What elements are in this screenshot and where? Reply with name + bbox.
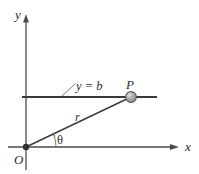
origin-dot — [23, 144, 29, 150]
x-axis-arrowhead — [170, 144, 179, 150]
leader-line — [62, 84, 76, 97]
angle-label: θ — [57, 133, 63, 147]
origin-label: O — [14, 152, 24, 167]
diagram-canvas: y x O y = b r θ P — [0, 0, 199, 174]
y-axis-arrowhead — [23, 14, 29, 22]
y-axis-label: y — [13, 7, 21, 22]
polar-coordinate-diagram: y x O y = b r θ P — [0, 0, 199, 174]
radius-label: r — [75, 110, 80, 124]
point-p-label: P — [125, 77, 134, 92]
x-axis-label: x — [184, 139, 191, 154]
point-p-marker — [126, 92, 137, 103]
line-equation-label: y = b — [74, 79, 102, 93]
